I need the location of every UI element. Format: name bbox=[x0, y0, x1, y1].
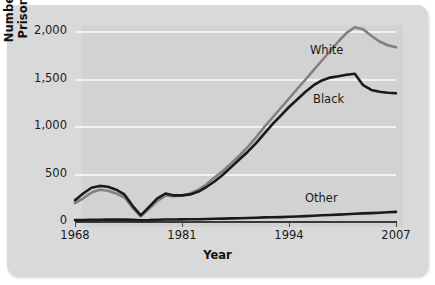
gridline-2000 bbox=[75, 31, 396, 33]
y-axis-title: Number of Prisoners bbox=[2, 0, 30, 60]
x-tick-label: 1981 bbox=[152, 228, 212, 242]
gridline-500 bbox=[75, 174, 396, 176]
x-tick-label: 1994 bbox=[259, 228, 319, 242]
series-label-other: Other bbox=[305, 191, 338, 205]
gridline-1000 bbox=[75, 126, 396, 128]
x-tick-label: 1968 bbox=[45, 228, 105, 242]
y-tick-label: 0 bbox=[5, 215, 67, 226]
x-axis-line bbox=[75, 221, 397, 223]
x-tick-mark bbox=[182, 222, 183, 227]
y-tick-label: 1,000 bbox=[5, 120, 67, 131]
y-tick-label: 1,500 bbox=[5, 73, 67, 84]
chart-figure: 05001,0001,5002,000 1968198119942007 Num… bbox=[0, 0, 435, 285]
x-tick-mark bbox=[396, 222, 397, 227]
series-label-black: Black bbox=[313, 92, 344, 106]
y-tick-label: 500 bbox=[5, 168, 67, 179]
x-tick-mark bbox=[75, 222, 76, 227]
gridline-1500 bbox=[75, 79, 396, 81]
x-axis-title: Year bbox=[0, 248, 435, 262]
series-label-white: White bbox=[310, 43, 343, 57]
x-tick-mark bbox=[289, 222, 290, 227]
x-tick-label: 2007 bbox=[366, 228, 426, 242]
